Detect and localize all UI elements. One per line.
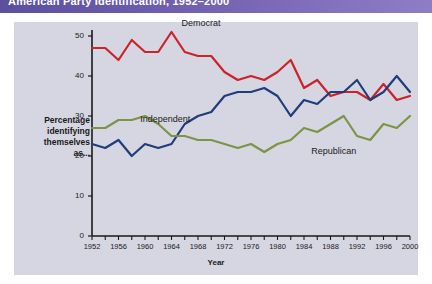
y-tick-10: 10 xyxy=(68,191,84,200)
y-tick-0: 0 xyxy=(68,231,84,240)
x-tick-1992: 1992 xyxy=(344,242,370,251)
y-axis-label: Percentage identifying themselves as... xyxy=(18,115,90,159)
x-tick-2000: 2000 xyxy=(397,242,423,251)
x-tick-1976: 1976 xyxy=(238,242,264,251)
axis-lines xyxy=(92,30,410,236)
series-label-republican: Republican xyxy=(311,146,356,156)
x-tick-1972: 1972 xyxy=(212,242,238,251)
x-tick-1952: 1952 xyxy=(79,242,105,251)
y-axis-label-line-1: Percentage xyxy=(18,115,90,126)
x-tick-1980: 1980 xyxy=(265,242,291,251)
y-axis-label-line-2: identifying xyxy=(18,126,90,137)
data-lines xyxy=(92,32,410,156)
x-tick-1968: 1968 xyxy=(185,242,211,251)
plot-area: 01020304050 1952195619601964196819721976… xyxy=(14,22,418,275)
x-tick-1984: 1984 xyxy=(291,242,317,251)
chart-panel: 01020304050 1952195619601964196819721976… xyxy=(14,22,418,275)
x-tick-1996: 1996 xyxy=(371,242,397,251)
x-axis-label: Year xyxy=(14,258,418,267)
y-axis-label-line-4: as... xyxy=(18,148,90,159)
x-tick-1960: 1960 xyxy=(132,242,158,251)
title-bar: American Party Identification, 1952–2000 xyxy=(0,0,432,13)
series-label-independent: Independent xyxy=(140,114,190,124)
y-tick-40: 40 xyxy=(68,71,84,80)
screenshot-root: American Party Identification, 1952–2000… xyxy=(0,0,432,284)
y-axis-label-line-3: themselves xyxy=(18,137,90,148)
x-tick-1964: 1964 xyxy=(159,242,185,251)
y-tick-50: 50 xyxy=(68,31,84,40)
x-tick-1956: 1956 xyxy=(106,242,132,251)
series-label-democrat: Democrat xyxy=(182,18,221,28)
x-tick-1988: 1988 xyxy=(318,242,344,251)
page-title: American Party Identification, 1952–2000 xyxy=(8,0,229,7)
